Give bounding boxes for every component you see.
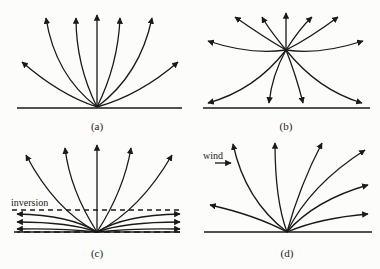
panel-d-rays: [204, 143, 372, 232]
diagram-canvas: [0, 0, 380, 269]
panel-a-label: (a): [91, 120, 103, 132]
panel-c-rays: [12, 145, 182, 232]
panel-a-rays: [17, 15, 182, 108]
panel-b-rays: [203, 13, 370, 108]
inversion-annotation: inversion: [11, 197, 48, 208]
panel-c-label: (c): [91, 247, 103, 259]
wind-annotation: wind: [203, 150, 223, 161]
panel-d-label: (d): [281, 247, 294, 259]
panel-b-label: (b): [280, 120, 293, 132]
